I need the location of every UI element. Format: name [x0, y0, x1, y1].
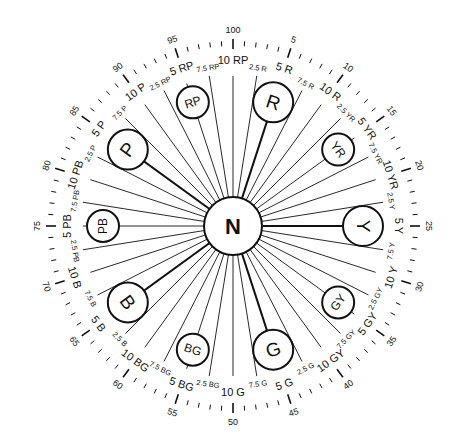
scale-tick — [123, 369, 129, 377]
scale-tick — [210, 42, 211, 47]
hue-label: 10 R — [318, 80, 344, 103]
hue-label: 10 PB — [65, 159, 86, 191]
scale-tick — [115, 365, 118, 369]
scale-tick — [175, 394, 178, 404]
scale-tick — [299, 54, 301, 59]
scale-number: 90 — [111, 60, 125, 74]
scale-number: 20 — [413, 159, 426, 172]
scale-tick — [90, 108, 94, 111]
scale-tick — [198, 403, 199, 408]
scale-number: 65 — [67, 334, 81, 348]
scale-number: 35 — [385, 334, 399, 348]
scale-tick — [299, 393, 301, 398]
scale-tick — [407, 271, 412, 272]
scale-tick — [329, 378, 332, 382]
scale-number: 80 — [40, 159, 53, 172]
scale-tick — [278, 47, 279, 52]
hue-label: 7.5 Y — [385, 242, 397, 261]
hue-label: 5 RP — [168, 59, 195, 78]
scale-number: 40 — [341, 378, 355, 392]
scale-tick — [256, 405, 257, 410]
scale-tick — [98, 349, 102, 352]
hue-label: 5 PB — [61, 214, 73, 238]
scale-tick — [410, 260, 415, 261]
hue-label: 5 B — [89, 313, 108, 333]
scale-tick — [115, 83, 118, 87]
scale-tick — [61, 292, 66, 294]
scale-tick — [348, 83, 351, 87]
hue-circle-r: R — [253, 82, 293, 122]
hue-circle-p: P — [108, 130, 148, 170]
scale-tick — [385, 127, 389, 130]
scale-tick — [154, 59, 156, 64]
scale-tick — [165, 393, 167, 398]
scale-tick — [134, 378, 137, 382]
hue-circle-b: B — [108, 282, 148, 322]
hue-label: 2.5 R — [248, 62, 268, 74]
scale-number: 50 — [228, 417, 238, 427]
scale-number: 75 — [32, 221, 42, 231]
scale-tick — [337, 75, 343, 83]
scale-tick — [98, 99, 102, 102]
scale-tick — [329, 70, 332, 74]
scale-tick — [401, 281, 411, 284]
scale-number: 10 — [341, 60, 355, 74]
hue-label: 10 BG — [119, 346, 151, 374]
hue-label: 10 YR — [380, 158, 401, 191]
hue-label: 7.5 BG — [148, 359, 173, 378]
scale-tick — [396, 303, 401, 305]
scale-tick — [396, 147, 401, 149]
hue-label: 7.5 RP — [196, 62, 220, 74]
scale-tick — [144, 384, 146, 388]
hue-circle-pb: PB — [87, 210, 119, 242]
scale-tick — [337, 369, 343, 377]
hue-circle-gy: GY — [322, 286, 354, 318]
hue-label: 7.5 B — [82, 289, 98, 309]
scale-tick — [198, 44, 199, 49]
hue-label: 2.5 Y — [385, 192, 397, 211]
hue-label: 2.5 RP — [148, 74, 173, 92]
hue-label: 10 B — [66, 265, 84, 290]
hue-label: 10 RP — [218, 54, 249, 66]
hue-spoke — [209, 255, 228, 376]
scale-tick — [49, 203, 54, 204]
scale-tick — [77, 127, 81, 130]
neutral-center: N — [204, 197, 262, 255]
scale-tick — [401, 168, 411, 171]
scale-tick — [51, 260, 56, 261]
scale-tick — [348, 365, 351, 369]
hue-label: 10 Y — [382, 264, 401, 290]
scale-number: 25 — [424, 221, 434, 231]
scale-tick — [372, 341, 376, 344]
hue-label: 7.5 R — [296, 75, 317, 91]
hue-circle-rp: RP — [177, 86, 209, 118]
hue-spoke — [209, 76, 228, 197]
scale-tick — [320, 384, 322, 388]
scale-tick — [356, 91, 359, 95]
scale-number: 60 — [111, 378, 125, 392]
scale-tick — [134, 70, 137, 74]
scale-tick — [66, 303, 71, 305]
scale-tick — [310, 389, 312, 394]
scale-tick — [288, 48, 291, 58]
hue-label: 5 GY — [355, 309, 380, 337]
scale-tick — [376, 330, 384, 336]
scale-tick — [55, 168, 65, 171]
scale-tick — [71, 313, 75, 315]
scale-tick — [82, 330, 90, 336]
hue-label: 10 P — [123, 80, 148, 103]
scale-tick — [391, 137, 395, 139]
hue-label: 5 BG — [168, 374, 196, 393]
scale-tick — [49, 249, 54, 250]
scale-tick — [210, 405, 211, 410]
scale-tick — [54, 271, 59, 272]
hue-label: 2.5 P — [82, 144, 98, 164]
scale-tick — [278, 400, 279, 405]
hue-label: 7.5 G — [248, 378, 268, 390]
hue-circle-label: Y — [353, 220, 374, 233]
scale-tick — [71, 137, 75, 139]
scale-number: 5 — [290, 34, 298, 45]
munsell-hue-wheel: 5101520253035404550556065707580859095100… — [0, 0, 463, 447]
scale-tick — [391, 313, 395, 315]
scale-tick — [356, 357, 359, 361]
